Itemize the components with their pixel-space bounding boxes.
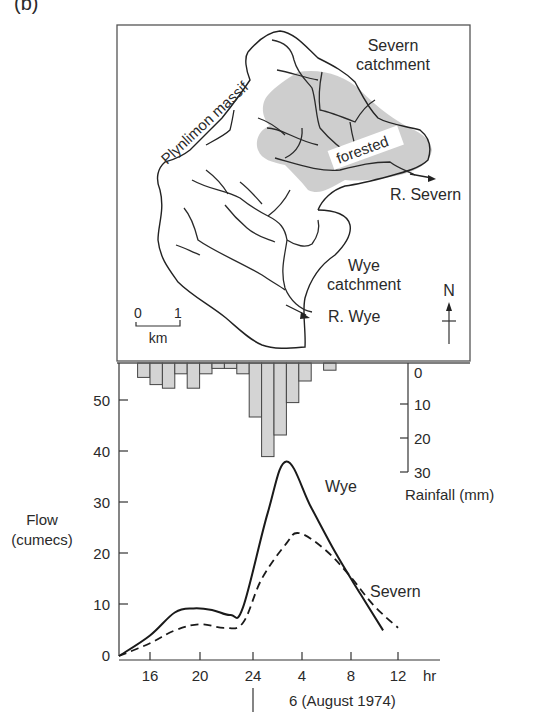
flow-axis-label: Flow — [26, 511, 58, 528]
rainfall-bar — [187, 363, 199, 388]
x-tick-20: 20 — [192, 667, 209, 684]
scale-unit-label: km — [149, 330, 168, 346]
wye-series-label: Wye — [325, 478, 357, 495]
rainfall-axis-label: Rainfall (mm) — [405, 486, 494, 503]
severn-catchment-label: Severn — [368, 37, 419, 54]
rainfall-bar — [212, 363, 224, 368]
severn-catchment-label-2: catchment — [356, 56, 430, 73]
rainfall-bar — [200, 363, 212, 374]
rainfall-bar — [286, 363, 298, 403]
wye-catchment-label-2: catchment — [327, 276, 401, 293]
rainfall-bar — [175, 363, 187, 374]
x-tick-8: 8 — [347, 667, 355, 684]
x-tick-16: 16 — [142, 667, 159, 684]
flow-axis — [119, 363, 128, 656]
flow-axis-label-2: (cumecs) — [11, 531, 73, 548]
x-tick-12: 12 — [390, 667, 407, 684]
wye-catchment-label: Wye — [348, 257, 380, 274]
severn-series-label: Severn — [370, 583, 421, 600]
rainfall-bar — [249, 363, 261, 417]
x-tick-24: 24 — [245, 667, 262, 684]
scale-1-label: 1 — [174, 305, 182, 321]
figure: (b) — [0, 0, 547, 724]
rainfall-bar — [224, 363, 236, 368]
panel-label: (b) — [14, 0, 38, 14]
rain-tick-30: 30 — [414, 464, 431, 481]
r-wye-label: R. Wye — [328, 308, 380, 325]
flow-tick-0: 0 — [102, 647, 110, 664]
rain-tick-10: 10 — [414, 396, 431, 413]
flow-tick-30: 30 — [93, 494, 110, 511]
rainfall-axis — [400, 363, 408, 472]
rainfall-bars — [138, 363, 336, 457]
rainfall-bar — [237, 363, 249, 374]
rainfall-bar — [138, 363, 150, 377]
flow-tick-10: 10 — [93, 596, 110, 613]
rainfall-bar — [162, 363, 174, 388]
date-label: 6 (August 1974) — [289, 692, 396, 709]
rainfall-bar — [324, 363, 336, 370]
r-severn-label: R. Severn — [390, 186, 461, 203]
rainfall-bar — [299, 363, 311, 381]
flow-tick-50: 50 — [93, 392, 110, 409]
hydrograph-chart: 0 10 20 30 Rainfall (mm) 50 40 30 20 10 … — [11, 363, 494, 712]
north-label: N — [443, 282, 455, 299]
rain-tick-20: 20 — [414, 430, 431, 447]
rainfall-bar — [150, 363, 162, 385]
x-tick-4: 4 — [298, 667, 306, 684]
rainfall-bar — [274, 363, 286, 435]
catchment-map: Severn catchment Plynlimon massif forest… — [117, 25, 470, 361]
flow-tick-40: 40 — [93, 443, 110, 460]
rain-tick-0: 0 — [414, 364, 422, 381]
x-axis-unit: hr — [423, 667, 436, 684]
scale-0-label: 0 — [134, 305, 142, 321]
rainfall-bar — [262, 363, 274, 457]
flow-tick-20: 20 — [93, 545, 110, 562]
